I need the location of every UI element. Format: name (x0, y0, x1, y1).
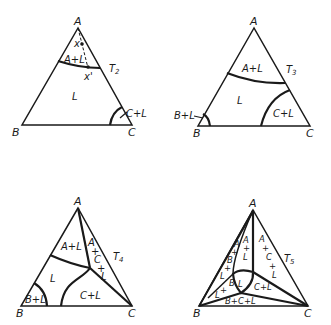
svg-text:+: + (224, 263, 231, 273)
vertex-a: A (73, 15, 82, 28)
region-l: L (50, 273, 56, 284)
vertex-a: A (249, 15, 258, 28)
vertex-c: C (304, 307, 312, 320)
region-c-l: C+L (126, 108, 147, 119)
point-x (80, 42, 84, 46)
region-l: L (238, 279, 243, 289)
region-c-l: C+L (273, 108, 294, 119)
point-x-prime (86, 65, 90, 69)
svg-text:L: L (215, 290, 220, 300)
temperature-t2: T2 (109, 63, 120, 76)
vertex-a: A (248, 197, 257, 210)
vertex-b: B (16, 307, 24, 320)
vertex-b: B (193, 307, 201, 320)
region-a-l: A+L (63, 54, 85, 65)
vertex-b: B (12, 126, 20, 139)
diagram-t4: A B C A+L L C+L B+L A + C + L T4 (16, 195, 136, 320)
region-a-l: A+L (60, 241, 82, 252)
region-a-c-l: A + C + L (258, 234, 277, 280)
vertex-b: B (193, 127, 201, 140)
region-a-l: A + L (242, 235, 250, 262)
svg-text:B: B (229, 278, 235, 288)
c-liquidus-boundary (110, 107, 122, 125)
vertex-c: C (128, 307, 136, 320)
svg-text:L: L (101, 271, 107, 282)
region-b-c-l: B+C+L (225, 296, 256, 306)
liquid-region-boundary (233, 270, 253, 293)
diagram-t2: A B C x x' A+L L C+L T2 (12, 15, 147, 139)
temperature-t3: T3 (286, 64, 297, 77)
vertex-c: C (128, 126, 136, 139)
label-x-prime: x' (83, 71, 93, 82)
temperature-t5: T5 (284, 253, 295, 266)
b-l-leader (194, 116, 203, 118)
svg-text:L: L (272, 270, 277, 280)
region-c-l: C+L (254, 282, 272, 292)
region-b-l: B+L (174, 110, 195, 121)
temperature-t4: T4 (113, 251, 124, 264)
svg-text:+: + (220, 285, 227, 295)
svg-text:L: L (220, 271, 225, 281)
region-l: L (72, 91, 78, 102)
region-a-l: A+L (241, 63, 263, 74)
a-liquidus-boundary (227, 73, 285, 83)
region-c-l: C+L (80, 290, 101, 301)
region-l: L (237, 95, 243, 106)
region-a-b-l: A + B + L (220, 239, 240, 281)
b-liquidus-boundary (203, 114, 210, 126)
a-liquidus-boundary (50, 255, 90, 268)
vertex-a: A (73, 195, 82, 208)
region-b-l: B+L (25, 294, 46, 305)
svg-text:L: L (243, 252, 248, 262)
diagram-t5: A B C A + L A + C + L A + B + L B + L L … (193, 197, 312, 320)
ternary-diagrams: A B C x x' A+L L C+L T2 A B C A+L L C+L … (0, 0, 331, 325)
label-x: x (73, 38, 80, 49)
diagram-t3: A B C A+L L C+L B+L T3 (174, 15, 314, 140)
vertex-c: C (306, 127, 314, 140)
